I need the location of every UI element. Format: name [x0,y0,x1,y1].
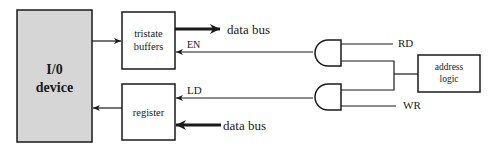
ld-label: LD [187,85,202,96]
io-device-label-line2: device [17,79,92,97]
rd-label: RD [398,38,413,49]
register-label-text: register [122,106,175,119]
data-bus-in-label: data bus [223,119,266,132]
and-gate-ld [315,84,341,110]
en-label: EN [187,40,200,50]
address-logic-label: address logic [418,62,480,86]
address-logic-label-line2: logic [418,74,480,86]
tristate-buffers-label: tristate buffers [122,27,175,53]
tristate-buffers-label-line1: tristate [122,27,175,40]
data-bus-out-label: data bus [227,23,270,36]
address-logic-label-line1: address [418,62,480,74]
wr-label: WR [403,100,421,111]
io-device-label-line1: I/0 [17,61,92,79]
and-gate-en [315,40,341,66]
io-device-label: I/0 device [17,61,92,96]
register-label: register [122,106,175,119]
tristate-buffers-label-line2: buffers [122,40,175,53]
address-select-line [341,61,394,90]
